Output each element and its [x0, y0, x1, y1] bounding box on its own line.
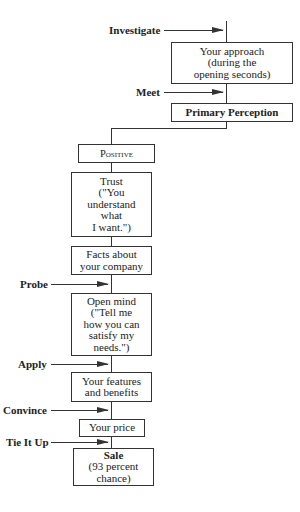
node-trust: Trust ("You understand what I want."): [71, 172, 152, 237]
sale-title: Sale: [104, 449, 124, 461]
arrow-icon: [164, 92, 223, 93]
node-facts-about-company: Facts about your company: [71, 246, 152, 275]
arrow-icon: [51, 442, 108, 443]
arrow-icon: [51, 364, 108, 365]
sales-flowchart: Investigate Your approach (during the op…: [0, 0, 300, 512]
arrow-icon: [164, 30, 223, 31]
step-label-investigate: Investigate: [109, 24, 160, 36]
node-your-approach: Your approach (during the opening second…: [171, 42, 293, 84]
step-label-tie-it-up: Tie It Up: [6, 436, 49, 448]
step-label-probe: Probe: [20, 278, 48, 290]
connector-line: [111, 128, 227, 129]
arrow-icon: [51, 284, 108, 285]
node-your-price: Your price: [79, 419, 145, 437]
node-open-mind: Open mind ("Tell me how you can satisfy …: [71, 293, 152, 356]
step-label-convince: Convince: [3, 404, 47, 416]
sale-label: Sale (93 percent chance): [89, 450, 139, 485]
step-label-apply: Apply: [18, 358, 47, 370]
step-label-meet: Meet: [136, 86, 160, 98]
node-positive: Positive: [78, 144, 155, 163]
node-sale-text: Sale (93 percent chance): [73, 448, 154, 486]
node-features-benefits: Your features and benefits: [71, 372, 152, 402]
node-primary-perception: Primary Perception: [171, 103, 293, 122]
arrow-icon: [51, 410, 108, 411]
